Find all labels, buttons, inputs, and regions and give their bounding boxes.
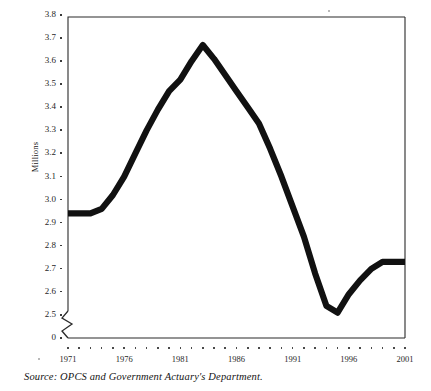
data-series-line <box>68 45 405 313</box>
print-speck <box>38 358 40 360</box>
source-note: Source: OPCS and Government Actuary's De… <box>24 371 263 382</box>
chart-figure: Millions 3.83.73.63.53.43.33.23.13.02.92… <box>0 0 431 391</box>
print-speck <box>328 10 330 12</box>
axis-break-zigzag <box>62 311 72 338</box>
plot-area <box>0 0 431 391</box>
